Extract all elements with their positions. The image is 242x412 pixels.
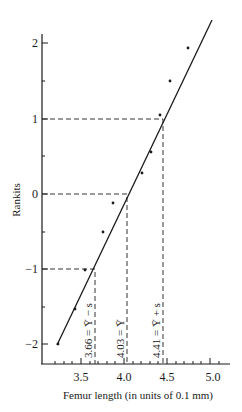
fit-line xyxy=(57,20,212,345)
y-tick-label: −2 xyxy=(25,337,38,351)
ref-label-plus-s: 4.41 = Ȳ + s xyxy=(150,303,162,358)
x-tick-label: 5.0 xyxy=(206,370,221,384)
y-axis-label: Rankits xyxy=(10,183,22,217)
x-axis-label: Femur length (in units of 0.1 mm) xyxy=(63,389,213,402)
x-tick-label: 3.5 xyxy=(74,370,89,384)
y-tick-label: −1 xyxy=(25,262,38,276)
x-ticks xyxy=(55,358,219,364)
y-tick-label: 0 xyxy=(32,187,38,201)
y-tick-label: 1 xyxy=(32,112,38,126)
ref-label-mean: 4.03 = Ȳ xyxy=(114,319,126,358)
rankit-plot: 2 1 0 −1 −2 3.5 4.0 4.5 5.0 Femur length… xyxy=(0,0,242,412)
x-tick-label: 4.5 xyxy=(160,370,175,384)
data-points xyxy=(57,47,190,346)
reference-lines xyxy=(42,119,163,364)
y-tick-label: 2 xyxy=(32,36,38,50)
ref-label-minus-s: 3.66 = Ȳ − s xyxy=(82,303,94,358)
x-tick-label: 4.0 xyxy=(117,370,132,384)
